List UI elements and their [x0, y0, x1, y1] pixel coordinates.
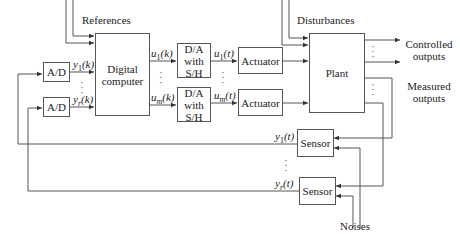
ellipsis-dots-da-out: ··· [220, 70, 226, 85]
measured-outputs-label: Measured outputs [398, 80, 460, 104]
actuator-2: Actuator [238, 89, 283, 116]
references-label: References [82, 14, 131, 26]
ellipsis-dots-sensors: ··· [283, 158, 289, 173]
ellipsis-dots-controlled: ··· [370, 44, 376, 59]
ad-converter-2: A/D [43, 97, 70, 117]
connection-lines [0, 0, 460, 240]
actuator-1: Actuator [238, 47, 283, 74]
signal-u1k: u1(k) [151, 47, 173, 64]
ad-converter-1: A/D [43, 62, 70, 82]
da-converter-2: D/A with S/H [177, 87, 211, 122]
signal-y1k: y1(k) [73, 58, 94, 75]
ellipsis-dots-ad: ··· [79, 80, 85, 95]
signal-y1t: y1(t) [275, 130, 294, 147]
ellipsis-dots-computer-out: ··· [158, 70, 164, 85]
sensor-2: Sensor [299, 177, 336, 205]
disturbances-label: Disturbances [297, 14, 354, 26]
sensor-1: Sensor [297, 129, 334, 157]
signal-umt: um(t) [214, 89, 236, 106]
da-converter-1: D/A with S/H [177, 43, 211, 78]
digital-computer-block: Digital computer [95, 33, 150, 116]
noises-label: Noises [340, 220, 370, 232]
signal-umk: um(k) [151, 91, 175, 108]
ellipsis-dots-measured: ··· [370, 82, 376, 97]
signal-u1t: u1(t) [214, 47, 234, 64]
controlled-outputs-label: Controlled outputs [398, 38, 460, 62]
signal-yrt: yr(t) [275, 177, 293, 194]
plant-block: Plant [309, 33, 365, 113]
